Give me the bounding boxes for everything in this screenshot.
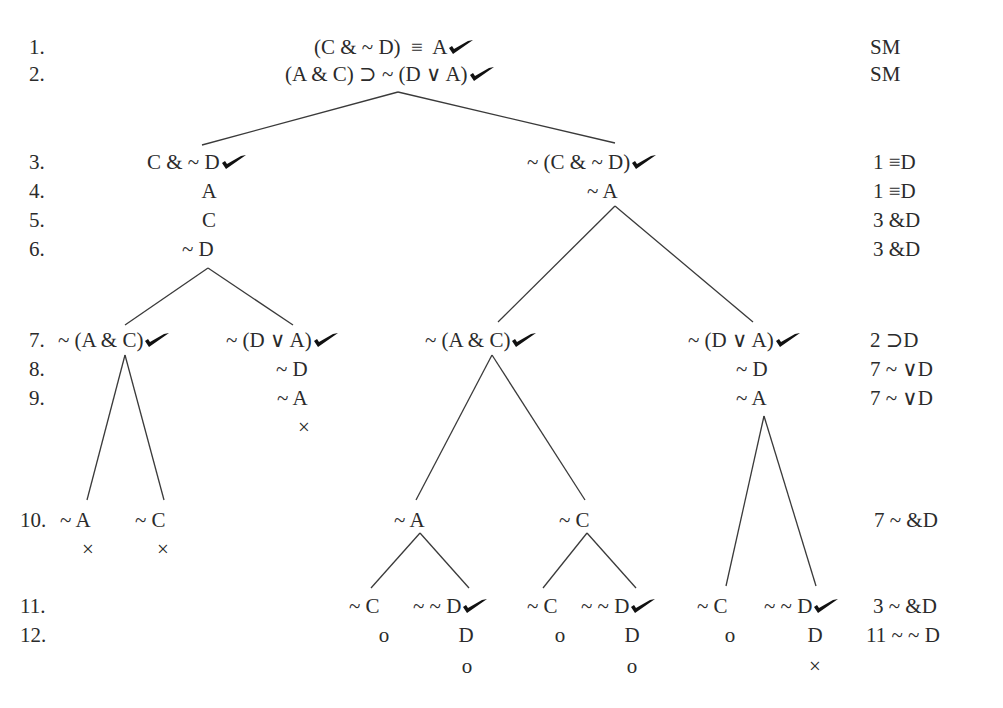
- node-right-right-8: ~ D: [736, 357, 768, 381]
- check-mark-icon: [221, 154, 247, 170]
- open-branch-mark: o: [462, 654, 473, 678]
- node-right-left-left-10: ~ A: [394, 508, 425, 532]
- node-right-left-7: ~ (A & C): [425, 328, 537, 352]
- justification-7: 2 ⊃D: [870, 328, 919, 352]
- node-right-3-text: ~ (C & ~ D): [527, 150, 630, 174]
- check-mark-icon: [462, 598, 488, 614]
- closed-branch-mark: ×: [809, 654, 821, 678]
- open-branch-mark: o: [627, 654, 638, 678]
- justification-10: 7 ~ &D: [874, 508, 938, 532]
- check-mark-icon: [775, 332, 801, 348]
- check-mark-icon: [469, 66, 495, 82]
- justification-6: 3 &D: [873, 237, 920, 261]
- line-number-8: 8.: [29, 357, 45, 381]
- line-number-11: 11.: [20, 594, 45, 618]
- justification-1: SM: [870, 35, 900, 59]
- node-left-4: A: [201, 179, 216, 203]
- node-12-b2: D: [624, 623, 639, 647]
- justification-8: 7 ~ ∨D: [870, 357, 933, 381]
- justification-12: 11 ~ ~ D: [866, 623, 940, 647]
- node-11-a1: ~ C: [349, 594, 380, 618]
- line-number-10: 10.: [20, 508, 46, 532]
- check-mark-icon: [630, 598, 656, 614]
- node-11-b1: ~ C: [527, 594, 558, 618]
- line-number-6: 6.: [29, 237, 45, 261]
- check-mark-icon: [631, 154, 657, 170]
- node-12-c2: D: [807, 623, 822, 647]
- premise-2-text: (A & C) ⊃ ~ (D ∨ A): [285, 62, 468, 86]
- node-left-left-7: ~ (A & C): [58, 328, 170, 352]
- check-mark-icon: [144, 332, 170, 348]
- node-left-right-9: ~ A: [277, 386, 308, 410]
- node-right-left-7-text: ~ (A & C): [425, 328, 510, 352]
- node-left-3-text: C & ~ D: [147, 150, 220, 174]
- check-mark-icon: [448, 39, 474, 55]
- line-number-2: 2.: [29, 62, 45, 86]
- node-11-c2: ~ ~ D: [764, 594, 839, 618]
- line-number-3: 3.: [29, 150, 45, 174]
- line-number-12: 12.: [20, 623, 46, 647]
- tree-branch-lines: [0, 0, 1003, 708]
- open-branch-mark: o: [379, 623, 390, 647]
- justification-9: 7 ~ ∨D: [870, 386, 933, 410]
- node-12-a2: D: [458, 623, 473, 647]
- node-11-b2: ~ ~ D: [581, 594, 656, 618]
- line-number-4: 4.: [29, 179, 45, 203]
- node-11-b2-text: ~ ~ D: [581, 594, 629, 618]
- line-number-9: 9.: [29, 386, 45, 410]
- closed-branch-mark: ×: [298, 415, 310, 439]
- node-right-left-right-10: ~ C: [559, 508, 590, 532]
- line-number-7: 7.: [29, 328, 45, 352]
- node-left-right-7-text: ~ (D ∨ A): [226, 328, 312, 352]
- premise-1: (C & ~ D) ≡ A: [314, 35, 474, 59]
- justification-4: 1 ≡D: [873, 179, 916, 203]
- node-right-right-7: ~ (D ∨ A): [688, 328, 801, 352]
- node-left-left-7-text: ~ (A & C): [58, 328, 143, 352]
- closed-branch-mark: ×: [82, 537, 94, 561]
- node-right-4: ~ A: [587, 179, 618, 203]
- node-left-3: C & ~ D: [147, 150, 247, 174]
- node-right-3: ~ (C & ~ D): [527, 150, 657, 174]
- node-left-right-8: ~ D: [276, 357, 308, 381]
- node-left-6: ~ D: [182, 237, 214, 261]
- line-number-1: 1.: [29, 35, 45, 59]
- node-left-left-right-10: ~ C: [135, 508, 166, 532]
- open-branch-mark: o: [725, 623, 736, 647]
- node-left-5: C: [202, 208, 216, 232]
- node-11-c2-text: ~ ~ D: [764, 594, 812, 618]
- line-number-5: 5.: [29, 208, 45, 232]
- check-mark-icon: [813, 598, 839, 614]
- premise-2: (A & C) ⊃ ~ (D ∨ A): [285, 62, 495, 86]
- truth-tree: 1. 2. 3. 4. 5. 6. 7. 8. 9. 10. 11. 12. S…: [0, 0, 1003, 708]
- check-mark-icon: [511, 332, 537, 348]
- open-branch-mark: o: [555, 623, 566, 647]
- node-right-right-9: ~ A: [736, 386, 767, 410]
- node-right-right-7-text: ~ (D ∨ A): [688, 328, 774, 352]
- node-11-c1: ~ C: [697, 594, 728, 618]
- justification-5: 3 &D: [873, 208, 920, 232]
- justification-11: 3 ~ &D: [873, 594, 937, 618]
- node-left-right-7: ~ (D ∨ A): [226, 328, 339, 352]
- closed-branch-mark: ×: [157, 537, 169, 561]
- node-11-a2: ~ ~ D: [413, 594, 488, 618]
- justification-3: 1 ≡D: [873, 150, 916, 174]
- node-11-a2-text: ~ ~ D: [413, 594, 461, 618]
- node-left-left-left-10: ~ A: [60, 508, 91, 532]
- premise-1-text: (C & ~ D) ≡ A: [314, 35, 447, 59]
- check-mark-icon: [313, 332, 339, 348]
- justification-2: SM: [870, 62, 900, 86]
